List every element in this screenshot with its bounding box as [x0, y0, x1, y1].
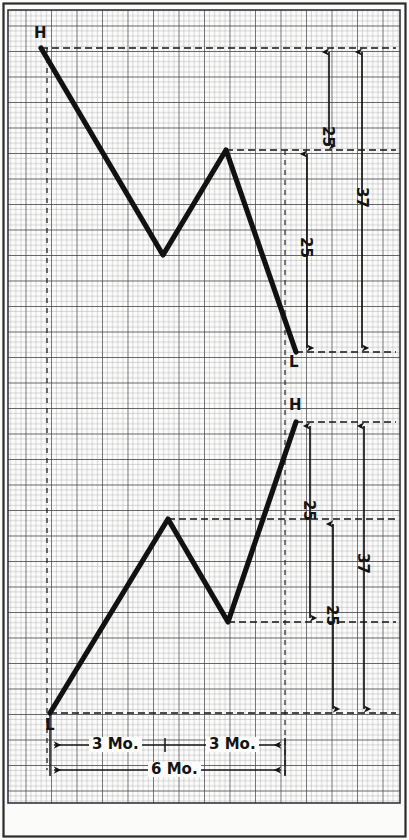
axis-label-6mo-total: 6 Mo.: [148, 762, 201, 777]
axis-label-3mo-right: 3 Mo.: [206, 737, 259, 752]
dimension-label-lower-37-total: 37: [355, 553, 370, 574]
axis-label-3mo-left: 3 Mo.: [89, 737, 142, 752]
dimension-label-upper-25-top: 25: [320, 126, 335, 147]
marker-top-high: H: [34, 26, 47, 41]
marker-bottom-low: L: [45, 718, 55, 733]
dimension-label-lower-25-top: 25: [301, 500, 316, 521]
marker-mid-low: L: [289, 355, 299, 370]
dimension-label-lower-25-bottom: 25: [324, 605, 339, 626]
hand-drawn-chart-canvas: [0, 0, 409, 840]
graph-paper-figure: H L H L 25 25 37 25 25 37 3 Mo. 3 Mo. 6 …: [0, 0, 409, 840]
marker-mid-high: H: [289, 398, 302, 413]
dimension-label-upper-25-bottom: 25: [298, 237, 313, 258]
dimension-label-upper-37-total: 37: [354, 187, 369, 208]
